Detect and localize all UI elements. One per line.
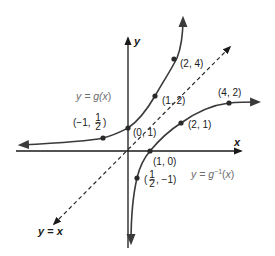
y-axis-label: y (133, 35, 141, 47)
point-g-neg1-half (100, 135, 105, 140)
label-half-neg1: ( 1 2 , −1) (144, 169, 176, 189)
point-ginv-half-neg1 (134, 175, 139, 180)
identity-label-eq: = (44, 225, 57, 237)
identity-line-label: y = x (37, 225, 64, 237)
curve-g-label-suffix: ) (108, 90, 112, 102)
curve-ginv-label-prefix: y = g (190, 168, 214, 180)
curve-g-label: y = g(x) (75, 90, 111, 102)
inverse-function-diagram: y x y = x y = g(x) y = g−1(x) (−1, 1 2 )… (0, 0, 275, 256)
label-0-1: (0, 1) (133, 127, 156, 138)
point-ginv-4-2 (226, 100, 231, 105)
label-4-2: (4, 2) (218, 87, 241, 98)
point-g-0-1 (125, 125, 130, 130)
label-1-0: (1, 0) (153, 156, 176, 167)
label-1-2: (1, 2) (162, 95, 185, 106)
curve-g (20, 18, 183, 145)
svg-text:(−1,: (−1, (73, 117, 91, 128)
label-neg1-half-a: (−1, (73, 117, 91, 128)
label-neg1-half-b: ) (103, 117, 106, 128)
curve-ginv-label-sup: −1 (214, 168, 222, 175)
curve-g-inverse-label: y = g−1(x) (190, 168, 234, 180)
label-half-neg1-b: , −1) (156, 174, 176, 185)
label-half-neg1-den: 2 (149, 178, 155, 189)
label-neg1-half: (−1, 1 2 ) (73, 112, 106, 132)
label-neg1-half-den: 2 (95, 121, 101, 132)
point-ginv-2-1 (178, 120, 183, 125)
point-ginv-1-0 (147, 148, 152, 153)
label-half-neg1-a: ( (144, 174, 148, 185)
identity-label-x: x (56, 225, 64, 237)
label-2-4: (2, 4) (180, 58, 203, 69)
point-g-1-2 (152, 93, 157, 98)
curve-g-label-prefix: y = g( (75, 90, 104, 102)
x-axis-label: x (233, 136, 241, 148)
label-2-1: (2, 1) (188, 119, 211, 130)
point-g-2-4 (171, 56, 176, 61)
curve-ginv-label-suffix: ) (231, 168, 235, 180)
